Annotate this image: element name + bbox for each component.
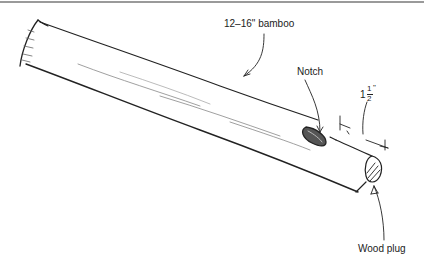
wood-plug-label: Wood plug [358, 243, 406, 254]
fraction-numerator: 1 [367, 84, 371, 93]
notch-distance-label: 1 1 2 " [360, 84, 380, 106]
bamboo-sketch [0, 0, 424, 271]
notch-label: Notch [297, 66, 323, 77]
inch-mark: " [373, 83, 376, 92]
fraction-whole: 1 [360, 89, 366, 100]
fraction-denominator: 2 [367, 94, 371, 103]
bamboo-length-label: 12–16" bamboo [224, 18, 294, 29]
